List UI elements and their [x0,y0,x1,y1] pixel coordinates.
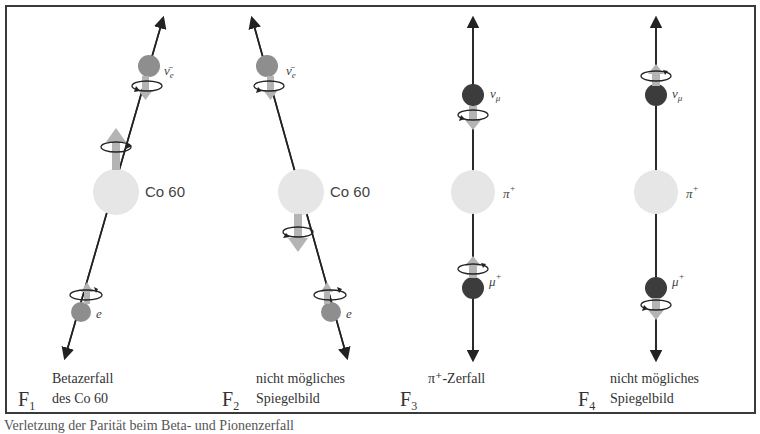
antineutrino-particle [138,55,160,77]
muon-neutrino-spin-arrow-icon [641,64,671,86]
pion-particle [634,170,678,214]
electron-particle [71,302,91,322]
f2-figure-number: F2 [222,389,239,416]
f1-figure-number: F1 [18,389,35,416]
f3-figure-number: F3 [400,389,417,416]
muon-particle [462,277,484,299]
f2-caption-line1: nicht mögliches [256,371,345,387]
f3-caption-line1: π⁺-Zerfall [428,371,485,387]
antineutrino-particle [256,55,278,77]
panel-f4: π+ νμ μ+ [634,22,699,356]
muon-label: μ+ [671,271,685,289]
pion-label: π+ [503,183,516,201]
muon-particle [645,277,667,299]
f1-caption-line1: Betazerfall [52,371,113,387]
footer-caption: Verletzung der Parität beim Beta- und Pi… [4,418,294,434]
electron-label: e [346,306,352,321]
pion-particle [451,170,495,214]
f1-caption-line2: des Co 60 [52,391,108,407]
muon-spin-arrow-icon [458,256,488,278]
muon-neutrino-label: νμ [672,86,683,103]
nucleus-co60 [93,169,139,215]
electron-spin-arrow-icon [314,282,346,304]
antineutrino-spin-arrow-icon [132,76,162,100]
electron-spin-arrow-icon [70,282,102,304]
pion-label: π+ [686,183,699,201]
muon-neutrino-particle [645,84,667,106]
muon-neutrino-particle [462,84,484,106]
f4-figure-number: F4 [578,389,595,416]
electron-particle [321,302,341,322]
nucleus-label: Co 60 [330,183,370,200]
muon-label: μ+ [488,271,502,289]
panel-f2: Co 60 ν̄e e [253,22,370,354]
f4-caption-line2: Spiegelbild [610,391,674,407]
muon-neutrino-label: νμ [490,86,501,103]
muon-neutrino-spin-arrow-icon [458,106,488,130]
antineutrino-label: ν̄e [164,63,174,80]
muon-spin-arrow-icon [641,298,671,320]
nucleus-co60 [278,169,324,215]
f2-caption-line2: Spiegelbild [256,391,320,407]
panel-f1: Co 60 ν̄e e [66,22,185,354]
panel-f3: π+ νμ μ+ [451,22,516,356]
nucleus-label: Co 60 [145,183,185,200]
antineutrino-spin-arrow-icon [254,76,284,100]
electron-label: e [96,306,102,321]
f4-caption-line1: nicht mögliches [610,371,699,387]
nucleus-spin-arrow-icon [101,128,132,170]
antineutrino-label: ν̄e [286,63,296,80]
